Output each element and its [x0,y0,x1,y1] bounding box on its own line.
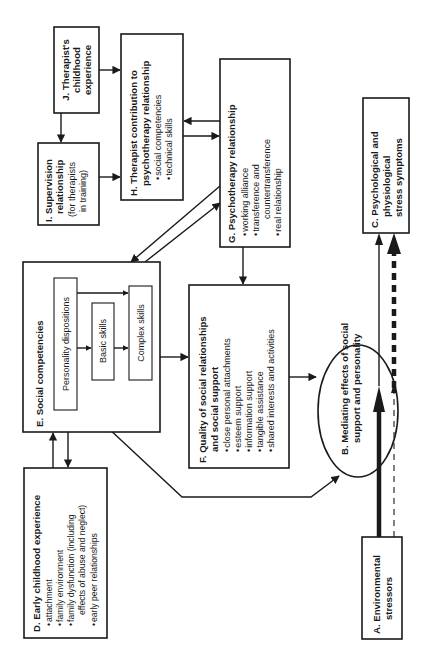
node-g-item-2: •transference and [251,164,261,236]
node-d-item-3: •family dysfunction (including [66,514,76,626]
node-j-title-1: J. Therapist's [60,39,71,100]
node-i-sub-1: (for therapists [67,161,77,217]
node-e-title: E. Social competencies [34,320,45,427]
node-c-stress-symptoms: C. Psychological and physiological stres… [363,98,409,233]
node-c-title-3: stress symptoms [393,138,404,217]
node-a-environmental-stressors: A. Environmental stressors [362,537,402,639]
node-g-title: G. Psychotherapy relationship [226,104,237,243]
node-c-title-2: physiological [381,156,392,217]
node-f-item-4: •tangible assistance [255,371,265,452]
node-d-item-2: •family environment [55,549,65,626]
arrowhead-a-to-b [373,386,385,412]
node-j-title-3: experience [82,45,93,95]
node-h-item-2: •technical skills [164,118,174,180]
node-f-item-1: •close personal attachments [222,338,232,452]
node-d-title: D. Early childhood experience [31,495,42,632]
node-h-item-1: •social competencies [153,94,163,180]
node-d-early-childhood: D. Early childhood experience •attachmen… [24,468,107,638]
node-g-item-1: •working alliance [240,168,250,236]
node-f-item-3: •information support [244,370,254,452]
stress-model-diagram: J. Therapist's childhood experience I. S… [0,0,439,666]
node-e-social-competencies: E. Social competencies Personality dispo… [23,262,160,432]
node-d-item-3-cont: effects of abuse and neglect) [77,505,87,615]
node-j-title-2: childhood [71,47,82,93]
node-b-title-1: B. Mediating effects of social [339,323,350,455]
node-i-sub-2: in training) [78,170,88,212]
node-g-item-3: •real relationship [273,168,283,236]
node-i-title-2: relationship [54,159,65,214]
arrowhead-b-to-c [375,233,383,245]
inner-label-personality: Personality dispositions [61,296,71,391]
node-f-social-relationships: F. Quality of social relationships and s… [189,285,289,468]
edge-e-to-g [145,203,220,262]
node-b-title-2: support and personality [351,333,362,443]
arrowhead-b-to-c-thick [387,233,401,254]
node-f-item-2: •esteem support [233,385,243,452]
node-h-therapist-contribution: H. Therapist contribution to psychothera… [121,34,183,200]
inner-label-basic: Basic skills [98,319,108,364]
node-b-mediating-effects: B. Mediating effects of social support a… [318,323,398,477]
node-j-therapist-childhood: J. Therapist's childhood experience [54,27,99,113]
node-f-item-5: •shared interests and activities [266,329,276,452]
node-a-title-2: stressors [383,577,394,620]
node-a-title-1: A. Environmental [371,555,382,634]
node-f-title-1: F. Quality of social relationships [197,316,208,463]
node-i-supervision: I. Supervision relationship (for therapi… [38,143,99,225]
node-d-item-4: •early peer relationships [89,533,99,626]
node-g-psychotherapy-relationship: G. Psychotherapy relationship •working a… [220,59,290,247]
node-d-item-1: •attachment [44,579,54,626]
inner-label-complex: Complex skills [136,304,146,362]
node-h-title-2: psychotherapy relationship [140,61,151,186]
node-f-title-2: and social support [209,366,220,452]
node-c-title-1: C. Psychological and [369,131,380,228]
node-h-title-1: H. Therapist contribution to [128,70,139,196]
node-g-item-2-cont: countertransference [262,139,272,219]
node-i-title-1: I. Supervision [43,159,54,222]
